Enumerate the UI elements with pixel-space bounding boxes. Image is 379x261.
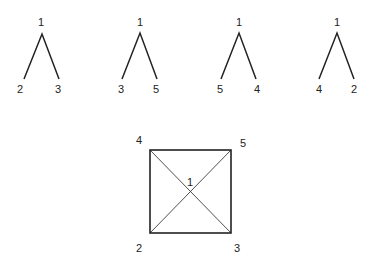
square-bottom-left-label: 2 xyxy=(136,242,142,254)
tree-3-branches xyxy=(221,33,256,79)
tree-1-branches xyxy=(24,34,59,79)
tree-1-root-label: 1 xyxy=(38,16,44,28)
tree-4-right-label: 2 xyxy=(351,83,357,95)
diagram-canvas: 1 2 3 1 3 5 1 5 4 1 4 2 4 5 2 3 1 xyxy=(0,0,379,261)
tree-1-right-label: 3 xyxy=(55,83,61,95)
square-top-right-label: 5 xyxy=(240,137,246,149)
tree-2-branches xyxy=(122,33,157,79)
tree-2-right-label: 5 xyxy=(153,83,159,95)
tree-4: 1 4 2 xyxy=(316,16,357,95)
tree-2-root-label: 1 xyxy=(137,16,143,28)
tree-3-left-label: 5 xyxy=(217,83,223,95)
tree-3: 1 5 4 xyxy=(217,16,260,95)
square-bottom-right-label: 3 xyxy=(234,242,240,254)
tree-4-left-label: 4 xyxy=(316,83,322,95)
tree-1: 1 2 3 xyxy=(17,16,61,95)
tree-1-left-label: 2 xyxy=(17,83,23,95)
square-top-left-label: 4 xyxy=(136,134,142,146)
square-center-label: 1 xyxy=(187,176,193,188)
tree-4-root-label: 1 xyxy=(334,16,340,28)
tree-2: 1 3 5 xyxy=(118,16,159,95)
tree-2-left-label: 3 xyxy=(118,83,124,95)
tree-4-branches xyxy=(319,33,354,79)
square-graph: 4 5 2 3 1 xyxy=(136,134,246,254)
tree-3-right-label: 4 xyxy=(254,83,260,95)
tree-3-root-label: 1 xyxy=(236,16,242,28)
